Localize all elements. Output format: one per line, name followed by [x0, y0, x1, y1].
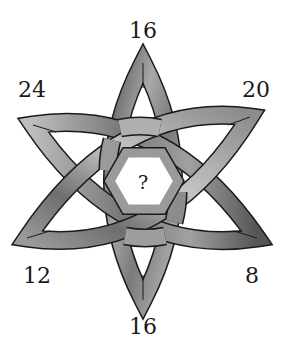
point-label-lower-left: 12	[23, 265, 51, 287]
unknown-value-question-mark: ?	[138, 173, 148, 192]
point-label-lower-right: 8	[245, 265, 259, 287]
point-label-top: 16	[129, 20, 157, 42]
point-label-upper-left: 24	[18, 79, 46, 101]
knot-puzzle: ? 16 20 8 16 12 24	[0, 0, 289, 351]
point-label-upper-right: 20	[242, 79, 270, 101]
point-label-bottom: 16	[129, 316, 157, 338]
